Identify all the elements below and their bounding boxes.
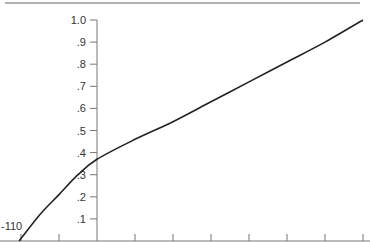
x-axis xyxy=(0,234,370,241)
y-axis: 1.0.9.8.7.6.5.4.3.2.1 xyxy=(71,14,97,241)
data-line xyxy=(19,20,363,241)
y-tick-label: .2 xyxy=(77,191,86,203)
annotation-label: -110 xyxy=(1,220,22,232)
y-tick-label: .8 xyxy=(77,58,86,70)
y-tick-label: .7 xyxy=(77,80,86,92)
y-tick-label: .9 xyxy=(77,36,86,48)
y-tick-label: .4 xyxy=(77,147,86,159)
y-tick-label: 1.0 xyxy=(71,14,86,26)
y-tick-label: .1 xyxy=(77,213,86,225)
y-tick-label: .5 xyxy=(77,125,86,137)
chart: 1.0.9.8.7.6.5.4.3.2.1 -110 xyxy=(0,0,370,242)
y-tick-label: .6 xyxy=(77,102,86,114)
